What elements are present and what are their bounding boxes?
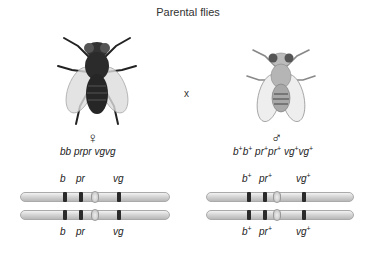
male-chromosome-1 — [206, 192, 354, 202]
gene-locus-pr — [79, 192, 83, 202]
female-fly-illustration — [52, 28, 142, 126]
male-label-pr-top: pr+ — [259, 173, 272, 184]
female-chromosome-1 — [20, 192, 170, 202]
male-label-pr-bottom: pr+ — [259, 226, 272, 237]
female-label-vg-top: vg — [113, 173, 124, 184]
centromere — [273, 209, 281, 221]
female-chromosome-2 — [20, 210, 170, 220]
gene-locus-b-plus — [247, 192, 251, 202]
gene-locus-pr-plus — [263, 192, 267, 202]
male-label-vg-top: vg+ — [296, 173, 311, 184]
centromere — [91, 191, 99, 203]
gene-locus-vg-plus — [302, 210, 306, 220]
diagram-title: Parental flies — [0, 6, 376, 18]
female-genotype: bb prpr vgvg — [60, 146, 116, 157]
male-label-vg-bottom: vg+ — [296, 226, 311, 237]
female-label-pr-bottom: pr — [76, 226, 85, 237]
gene-locus-vg — [117, 192, 121, 202]
male-genotype: b+b+ pr+pr+ vg+vg+ — [233, 146, 313, 157]
female-label-vg-bottom: vg — [113, 226, 124, 237]
male-label-b-top: b+ — [242, 173, 252, 184]
gene-locus-vg-plus — [302, 192, 306, 202]
cross-symbol: x — [184, 88, 189, 99]
male-symbol: ♂ — [271, 130, 282, 145]
female-label-b-bottom: b — [60, 226, 66, 237]
centromere — [91, 209, 99, 221]
male-label-b-bottom: b+ — [242, 226, 252, 237]
centromere — [273, 191, 281, 203]
male-fly-illustration — [245, 44, 317, 128]
gene-locus-vg — [117, 210, 121, 220]
gene-locus-b — [63, 192, 67, 202]
gene-locus-pr-plus — [263, 210, 267, 220]
female-label-pr-top: pr — [76, 173, 85, 184]
female-label-b-top: b — [60, 173, 66, 184]
gene-locus-b-plus — [247, 210, 251, 220]
gene-locus-pr — [79, 210, 83, 220]
male-chromosome-2 — [206, 210, 354, 220]
female-symbol: ♀ — [87, 130, 98, 145]
gene-locus-b — [63, 210, 67, 220]
